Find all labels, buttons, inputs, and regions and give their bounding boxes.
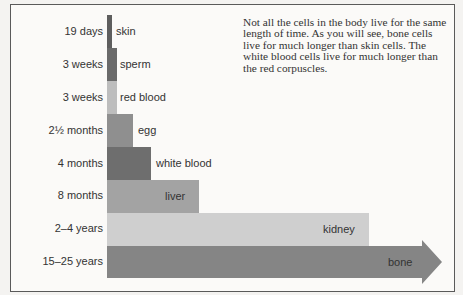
cell-label-kidney: kidney xyxy=(323,223,355,235)
cell-label-sperm: sperm xyxy=(120,58,151,70)
cell-label-liver: liver xyxy=(165,190,185,202)
cell-label-skin: skin xyxy=(116,25,136,37)
cell-label-white-blood: white blood xyxy=(156,157,212,169)
cell-label-bone: bone xyxy=(388,256,412,268)
cell-label-egg: egg xyxy=(138,124,156,136)
bar-bone-arrow xyxy=(0,0,463,295)
cell-label-red-blood: red blood xyxy=(120,91,166,103)
